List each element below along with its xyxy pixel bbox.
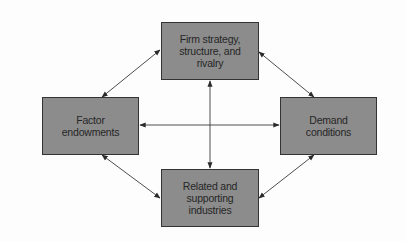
node-firm-strategy: Firm strategy, structure, and rivalry [161, 22, 259, 80]
node-demand-conditions: Demand conditions [280, 97, 377, 155]
node-label: Demand conditions [306, 114, 351, 138]
node-label: Related and supporting industries [183, 180, 237, 216]
arrow-top-left [102, 50, 160, 97]
arrow-bottom-right [259, 155, 314, 198]
node-related-industries: Related and supporting industries [161, 169, 259, 227]
arrow-bottom-left [102, 155, 160, 198]
node-label: Factor endowments [62, 114, 120, 138]
diagram-canvas: Firm strategy, structure, and rivalry Fa… [0, 0, 406, 241]
node-label: Firm strategy, structure, and rivalry [179, 33, 240, 69]
arrow-top-right [259, 52, 314, 97]
node-factor-endowments: Factor endowments [42, 97, 139, 155]
